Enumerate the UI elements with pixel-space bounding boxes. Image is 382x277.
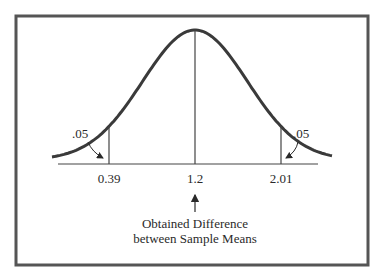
tick-label-center: 1.2 bbox=[187, 171, 203, 186]
annotation-line-2: between Sample Means bbox=[133, 231, 256, 246]
tail-arrow-left bbox=[88, 142, 103, 158]
tick-label-left: 0.39 bbox=[98, 171, 121, 186]
normal-distribution-diagram: 0.39 1.2 2.01 .05 .05 Obtained Differenc… bbox=[0, 0, 382, 277]
tick-label-right: 2.01 bbox=[270, 171, 293, 186]
tail-area-label-right: .05 bbox=[293, 126, 309, 141]
annotation-line-1: Obtained Difference bbox=[142, 216, 248, 231]
tail-area-label-left: .05 bbox=[72, 126, 88, 141]
normal-curve bbox=[52, 30, 332, 157]
tail-arrow-right bbox=[286, 142, 298, 158]
